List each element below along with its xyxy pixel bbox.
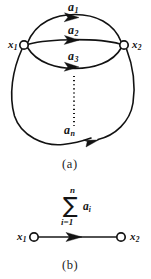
edge-label-a1: a1 [68,1,78,13]
caption-panel-b: (b) [62,259,78,272]
sigma-icon: ∑ [63,195,78,217]
figure-root: x1 x2 a1 a2 a3 an (a) n ∑ ai i=1 x1 x2 (… [0,0,151,279]
edge-label-a2: a2 [68,24,78,36]
summation-expression: n ∑ ai i=1 [57,186,109,232]
node-x1-panel-b [30,233,38,241]
arrow-head-an [84,140,99,147]
edge-curve-an-left [12,49,91,145]
node-x1-panel-a [20,41,28,49]
node-x2-panel-b [117,233,125,241]
edge-label-an: an [64,124,74,136]
node-label-x2-panel-a: x2 [132,39,141,50]
node-label-x1-panel-a: x1 [8,39,17,50]
node-x2-panel-a [120,41,128,49]
panel-b-graph [30,232,125,241]
node-label-x2-panel-b: x2 [130,231,139,242]
node-label-x1-panel-b: x1 [17,231,26,242]
edge-label-a3: a3 [68,50,78,62]
summation-term: ai [83,201,91,213]
caption-panel-a: (a) [62,158,78,171]
summation-lower-limit: i=1 [61,218,73,227]
